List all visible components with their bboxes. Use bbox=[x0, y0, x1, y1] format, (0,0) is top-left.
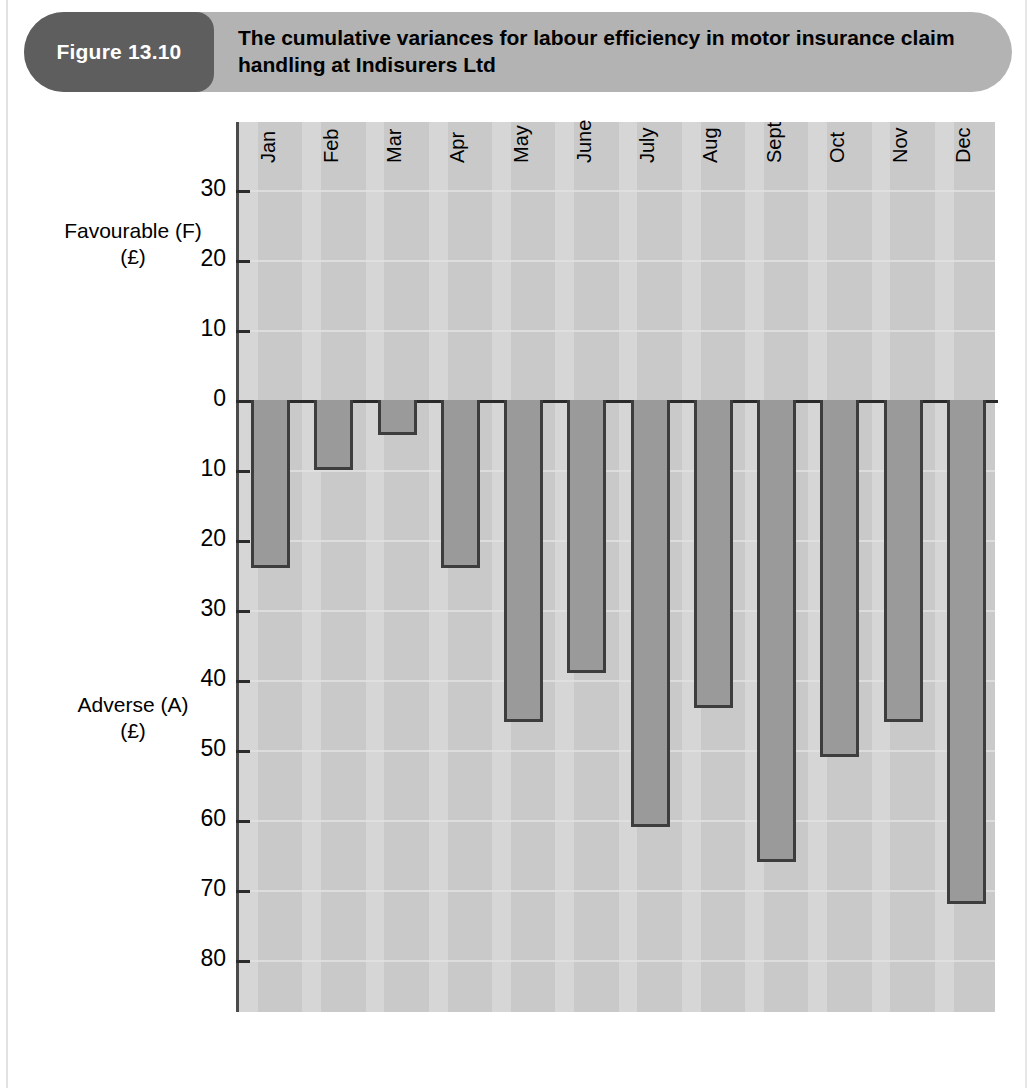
favourable-caption-line1: Favourable (F) bbox=[18, 218, 248, 244]
bar-apr bbox=[441, 400, 480, 568]
month-label-jan: Jan bbox=[257, 131, 280, 163]
column-stripe bbox=[366, 122, 385, 1012]
month-label-apr: Apr bbox=[446, 132, 469, 163]
bar-nov bbox=[884, 400, 923, 722]
month-label-july: July bbox=[636, 127, 659, 163]
figure-title: The cumulative variances for labour effi… bbox=[238, 25, 1012, 79]
gridline bbox=[239, 890, 995, 892]
bar-feb bbox=[314, 400, 353, 470]
y-tick bbox=[236, 330, 250, 333]
y-tick bbox=[236, 190, 250, 193]
figure-number-label: Figure 13.10 bbox=[57, 40, 182, 64]
month-label-oct: Oct bbox=[826, 132, 849, 163]
gridline bbox=[239, 820, 995, 822]
y-tick-label: 10 bbox=[156, 315, 226, 342]
column-stripes bbox=[239, 122, 995, 1012]
chart-container: JanFebMarAprMayJuneJulyAugSeptOctNovDec … bbox=[0, 100, 1031, 1000]
figure-header-banner: Figure 13.10 The cumulative variances fo… bbox=[24, 12, 1012, 92]
y-tick-label: 70 bbox=[156, 875, 226, 902]
bar-may bbox=[504, 400, 543, 722]
plot-area: JanFebMarAprMayJuneJulyAugSeptOctNovDec bbox=[236, 122, 995, 1012]
gridline bbox=[239, 330, 995, 332]
month-label-feb: Feb bbox=[320, 129, 343, 163]
y-tick bbox=[236, 470, 250, 473]
bar-sept bbox=[757, 400, 796, 862]
adverse-caption-line2: (£) bbox=[18, 718, 248, 744]
favourable-caption-line2: (£) bbox=[18, 244, 248, 270]
bar-oct bbox=[820, 400, 859, 757]
bar-aug bbox=[694, 400, 733, 708]
y-tick bbox=[236, 400, 250, 403]
gridline bbox=[239, 680, 995, 682]
y-tick bbox=[236, 960, 250, 963]
month-label-may: May bbox=[510, 125, 533, 163]
y-tick bbox=[236, 610, 250, 613]
y-tick bbox=[236, 680, 250, 683]
month-label-aug: Aug bbox=[699, 127, 722, 163]
favourable-axis-caption: Favourable (F) (£) bbox=[18, 218, 248, 271]
bar-june bbox=[567, 400, 606, 673]
y-tick bbox=[236, 820, 250, 823]
y-tick-label: 60 bbox=[156, 805, 226, 832]
y-tick bbox=[236, 750, 250, 753]
bar-mar bbox=[378, 400, 417, 435]
gridline bbox=[239, 540, 995, 542]
month-label-mar: Mar bbox=[383, 129, 406, 163]
column-stripe bbox=[302, 122, 321, 1012]
gridline bbox=[239, 470, 995, 472]
bar-dec bbox=[947, 400, 986, 904]
month-label-sept: Sept bbox=[763, 122, 786, 163]
month-label-june: June bbox=[573, 120, 596, 163]
y-tick-label: 30 bbox=[156, 595, 226, 622]
month-label-dec: Dec bbox=[952, 127, 975, 163]
gridline bbox=[239, 190, 995, 192]
y-tick-label: 80 bbox=[156, 945, 226, 972]
bar-jan bbox=[251, 400, 290, 568]
adverse-axis-caption: Adverse (A) (£) bbox=[18, 692, 248, 745]
bar-july bbox=[631, 400, 670, 827]
y-tick-label: 30 bbox=[156, 175, 226, 202]
y-tick-label: 40 bbox=[156, 665, 226, 692]
gridline bbox=[239, 610, 995, 612]
gridline bbox=[239, 750, 995, 752]
adverse-caption-line1: Adverse (A) bbox=[18, 692, 248, 718]
y-tick-label: 20 bbox=[156, 525, 226, 552]
y-tick bbox=[236, 540, 250, 543]
y-tick bbox=[236, 890, 250, 893]
month-label-nov: Nov bbox=[889, 127, 912, 163]
gridline bbox=[239, 260, 995, 262]
gridline bbox=[239, 960, 995, 962]
figure-number-tag: Figure 13.10 bbox=[24, 12, 214, 92]
y-tick-label: 10 bbox=[156, 455, 226, 482]
y-tick-label: 0 bbox=[156, 385, 226, 412]
